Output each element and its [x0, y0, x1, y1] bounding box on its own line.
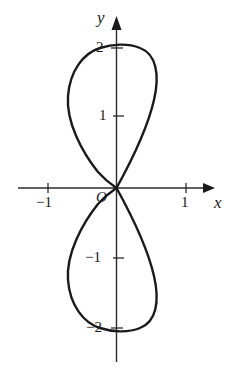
x-tick-label-1: 1	[181, 195, 189, 210]
x-tick-label-minus-1: −1	[36, 195, 52, 210]
y-tick-label-2: 2	[96, 40, 104, 55]
figure-eight-plot: 2 1 −1 −2 −1 1 O x y	[0, 0, 234, 375]
y-tick-label-1: 1	[99, 108, 107, 123]
y-axis-arrowhead	[112, 16, 122, 30]
x-axis-label: x	[214, 194, 222, 211]
y-tick-label-minus-2: −2	[86, 320, 102, 335]
y-tick-label-minus-1: −1	[85, 250, 101, 265]
x-axis-arrowhead	[203, 183, 215, 193]
y-axis-label: y	[97, 9, 105, 26]
origin-label: O	[96, 190, 107, 205]
plot-canvas	[0, 0, 234, 375]
